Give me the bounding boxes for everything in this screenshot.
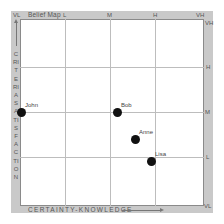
data-point-john[interactable] xyxy=(17,108,26,117)
x-axis-arrow-icon xyxy=(122,210,162,211)
x-axis-label: CERTAINTY-KNOWLEDGE xyxy=(28,206,133,213)
point-label-lisa: Lisa xyxy=(155,151,166,157)
right-tick-vh: VH xyxy=(205,20,213,26)
point-label-bob: Bob xyxy=(121,102,132,108)
data-point-bob[interactable] xyxy=(113,108,122,117)
y-axis-arrow-icon xyxy=(16,22,17,46)
top-tick-vl: VL xyxy=(13,12,20,18)
gridline-y-l xyxy=(20,157,204,158)
gridline-y-h xyxy=(20,67,204,68)
top-tick-m: M xyxy=(107,12,112,18)
data-point-lisa[interactable] xyxy=(147,157,156,166)
right-tick-m: M xyxy=(205,109,210,115)
top-tick-vh: VH xyxy=(196,12,204,18)
top-tick-l: L xyxy=(63,12,66,18)
top-tick-h: H xyxy=(153,12,157,18)
right-tick-h: H xyxy=(206,64,210,70)
chart-title: Belief Map xyxy=(28,11,61,18)
right-tick-l: L xyxy=(206,154,209,160)
right-tick-vl: VL xyxy=(204,203,211,209)
data-point-anne[interactable] xyxy=(131,135,140,144)
point-label-john: John xyxy=(25,102,38,108)
point-label-anne: Anne xyxy=(139,129,153,135)
